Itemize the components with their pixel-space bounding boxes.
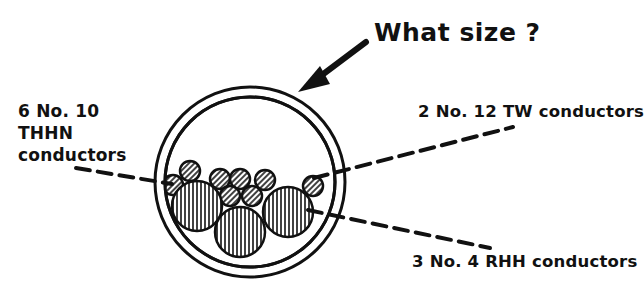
thhn-label-line-2: THHN <box>18 122 127 144</box>
rhh-conductor <box>172 181 222 231</box>
thhn-conductor <box>180 161 200 181</box>
tw-conductor <box>255 170 275 190</box>
rhh-conductor <box>215 207 265 257</box>
thhn-label-line-1: 6 No. 10 <box>18 100 127 122</box>
tw-label: 2 No. 12 TW conductors <box>418 102 644 121</box>
rhh-conductor <box>263 187 313 237</box>
thhn-label-line-3: conductors <box>18 144 127 166</box>
thhn-label: 6 No. 10 THHN conductors <box>18 100 127 166</box>
rhh-label: 3 No. 4 RHH conductors <box>412 252 637 271</box>
tw-leader-line <box>314 127 513 178</box>
rhh-leader-line <box>308 210 490 248</box>
arrow-icon <box>298 42 366 92</box>
question-title: What size ? <box>374 18 541 47</box>
